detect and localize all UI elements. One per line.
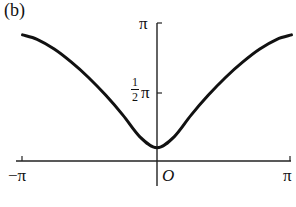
- x-tick-label-neg-pi: −π: [8, 167, 26, 184]
- y-tick-label-half-num: 1: [131, 76, 139, 88]
- x-tick-label-pi: π: [283, 167, 292, 184]
- chart-canvas: [0, 0, 296, 207]
- y-tick-label-pi: π: [139, 15, 148, 32]
- origin-label: O: [162, 167, 174, 184]
- y-tick-label-half-den: 2: [131, 91, 139, 103]
- y-tick-label-half-pi: π: [141, 84, 150, 101]
- panel-label: (b): [4, 1, 25, 19]
